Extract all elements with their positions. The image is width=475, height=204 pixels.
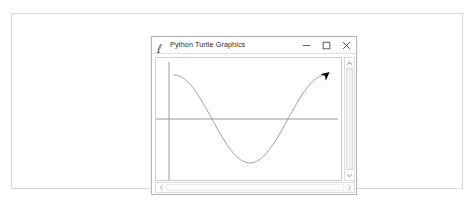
minimize-button[interactable]	[296, 37, 316, 53]
turtle-arrow-icon	[320, 72, 329, 81]
chevron-right-icon[interactable]	[344, 183, 354, 192]
python-feather-icon	[155, 40, 166, 51]
horizontal-scrollbar[interactable]	[155, 182, 355, 193]
turtle-graphics-window[interactable]: Python Turtle Graphics	[151, 36, 357, 195]
vertical-scrollbar-thumb[interactable]	[346, 68, 353, 170]
chevron-up-icon[interactable]	[345, 58, 354, 68]
vertical-scrollbar[interactable]	[344, 57, 355, 181]
chevron-left-icon[interactable]	[156, 183, 166, 192]
close-button[interactable]	[336, 37, 356, 53]
cosine-curve-plot	[156, 58, 342, 181]
window-title: Python Turtle Graphics	[170, 41, 296, 48]
chevron-down-icon[interactable]	[345, 170, 354, 180]
turtle-drawing-canvas[interactable]	[155, 57, 342, 181]
maximize-button[interactable]	[316, 37, 336, 53]
page-frame: Python Turtle Graphics	[11, 13, 463, 189]
horizontal-scrollbar-thumb[interactable]	[166, 184, 344, 191]
window-title-bar[interactable]: Python Turtle Graphics	[152, 37, 356, 54]
canvas-area	[152, 54, 356, 194]
